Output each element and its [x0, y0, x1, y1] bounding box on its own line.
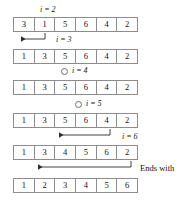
- shift-arrow-i6: [38, 161, 131, 167]
- array-row-2: 1 3 5 6 4 2: [13, 49, 138, 64]
- array-cell: 6: [76, 18, 97, 31]
- shift-arrow-i2: [21, 33, 45, 39]
- array-row-4: 1 3 5 6 4 2: [13, 113, 138, 128]
- array-cell: 5: [55, 81, 76, 94]
- array-cell: 2: [35, 179, 56, 192]
- array-cell: 3: [35, 114, 56, 127]
- array-cell: 4: [97, 50, 118, 63]
- array-cell: 5: [55, 18, 76, 31]
- array-cell: 4: [97, 81, 118, 94]
- ends-with-label: Ends with: [140, 163, 174, 173]
- array-cell: 5: [97, 179, 118, 192]
- insertion-sort-trace-diagram: i = 2 3 1 5 6 4 2 i = 3 1 3 5 6 4 2 i = …: [0, 0, 192, 200]
- array-cell: 6: [97, 146, 118, 159]
- array-cell: 2: [117, 81, 137, 94]
- no-shift-marker-icon: [75, 101, 82, 108]
- no-shift-marker-icon: [61, 68, 68, 75]
- array-cell: 5: [55, 50, 76, 63]
- array-cell: 6: [76, 114, 97, 127]
- array-cell: 1: [14, 50, 35, 63]
- step-label-i6: i = 6: [122, 132, 138, 141]
- array-cell: 1: [14, 114, 35, 127]
- array-row-5: 1 3 4 5 6 2: [13, 145, 138, 160]
- array-cell: 3: [35, 81, 56, 94]
- array-cell: 3: [55, 179, 76, 192]
- array-cell: 2: [117, 114, 137, 127]
- step-label-i2: i = 2: [40, 5, 56, 14]
- array-row-3: 1 3 5 6 4 2: [13, 80, 138, 95]
- array-cell: 4: [55, 146, 76, 159]
- array-cell: 3: [35, 146, 56, 159]
- array-row-1: 3 1 5 6 4 2: [13, 17, 138, 32]
- step-label-i3: i = 3: [56, 35, 72, 44]
- array-cell: 4: [97, 114, 118, 127]
- array-row-6: 1 2 3 4 5 6: [13, 178, 138, 193]
- array-cell: 4: [97, 18, 118, 31]
- array-cell: 4: [76, 179, 97, 192]
- step-label-i4: i = 4: [72, 66, 88, 75]
- array-cell: 1: [14, 179, 35, 192]
- array-cell: 1: [14, 146, 35, 159]
- array-cell: 2: [117, 146, 137, 159]
- step-label-i5: i = 5: [86, 99, 102, 108]
- array-cell: 3: [14, 18, 35, 31]
- array-cell: 1: [14, 81, 35, 94]
- shift-arrow-i5: [59, 129, 110, 135]
- array-cell: 5: [76, 146, 97, 159]
- array-cell: 2: [117, 50, 137, 63]
- array-cell: 6: [76, 50, 97, 63]
- array-cell: 3: [35, 50, 56, 63]
- array-cell: 5: [55, 114, 76, 127]
- array-cell: 6: [117, 179, 137, 192]
- array-cell: 2: [117, 18, 137, 31]
- array-cell: 6: [76, 81, 97, 94]
- array-cell: 1: [35, 18, 56, 31]
